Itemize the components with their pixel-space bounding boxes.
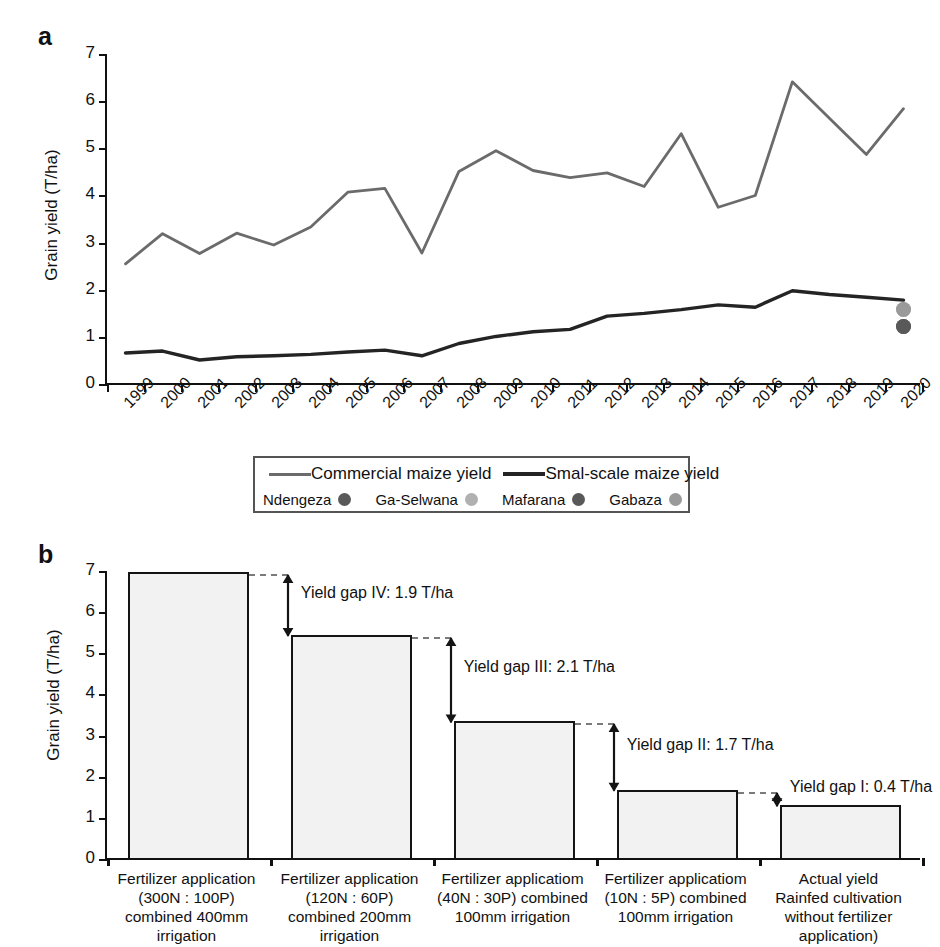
panel-b-y-axis-label: Grain yield (T/ha)	[44, 615, 64, 775]
legend-site-dot	[338, 493, 351, 506]
x-tick-mark	[596, 858, 599, 866]
y-tick-mark	[99, 290, 107, 292]
legend-site-dot	[572, 493, 585, 506]
y-tick-label: 0	[86, 849, 95, 866]
legend-site-entry: Ga-Selwana	[375, 491, 478, 508]
category-label-2: Fertilizer application(120N : 60P)combin…	[262, 870, 437, 946]
gap-double-arrow	[605, 723, 623, 792]
legend-site-entry: Gabaza	[609, 491, 682, 508]
category-label-1: Fertilizer application(300N : 100P)combi…	[99, 870, 274, 946]
legend-site-dot	[465, 493, 478, 506]
panel-a-letter: a	[38, 22, 52, 51]
x-tick-mark	[433, 858, 436, 866]
legend-series-row: Commercial maize yieldSmal-scale maize y…	[255, 461, 702, 487]
category-label-line: (40N : 30P) combined	[425, 889, 600, 908]
gap-label-2: Yield gap III: 2.1 T/ha	[464, 658, 615, 676]
category-label-line: combined 400mm	[99, 908, 274, 927]
legend-site-label: Ndengeza	[263, 491, 331, 508]
y-tick-mark	[99, 777, 107, 779]
bar-2	[291, 635, 412, 858]
panel-a-y-axis-label: Grain yield (T/ha)	[42, 135, 62, 295]
y-tick-mark	[99, 859, 107, 861]
x-tick-mark	[922, 858, 925, 866]
y-tick-mark	[99, 612, 107, 614]
category-label-line: without fertilizer	[751, 908, 926, 927]
legend-site-entry: Ndengeza	[263, 491, 351, 508]
y-tick-label: 3	[86, 233, 95, 250]
y-tick-label: 5	[86, 138, 95, 155]
gap-double-arrow	[279, 574, 297, 637]
legend-sites-row: NdengezaGa-SelwanaMafaranaGabaza	[255, 487, 696, 512]
y-tick-label: 7	[86, 561, 95, 578]
bar-4	[617, 790, 738, 858]
y-tick-mark	[99, 694, 107, 696]
y-tick-mark	[99, 148, 107, 150]
legend-site-label: Ga-Selwana	[375, 491, 458, 508]
y-tick-label: 7	[86, 44, 95, 61]
y-tick-label: 1	[86, 327, 95, 344]
category-label-line: Actual yield	[751, 870, 926, 889]
x-tick-mark	[270, 858, 273, 866]
y-tick-mark	[99, 736, 107, 738]
panel-a-legend: Commercial maize yieldSmal-scale maize y…	[253, 456, 690, 513]
y-tick-label: 5	[86, 643, 95, 660]
gap-double-arrow	[442, 637, 460, 723]
x-tick-mark	[107, 858, 110, 866]
category-label-line: (10N : 5P) combined	[588, 889, 763, 908]
y-tick-mark	[99, 337, 107, 339]
category-label-line: 100mm irrigation	[588, 908, 763, 927]
y-tick-label: 6	[86, 602, 95, 619]
bar-1	[128, 572, 249, 858]
gap-label-3: Yield gap II: 1.7 T/ha	[627, 736, 774, 754]
legend-line-swatch	[269, 473, 311, 476]
bar-5	[780, 805, 901, 858]
category-label-line: 100mm irrigation	[425, 908, 600, 927]
bar-3	[454, 721, 575, 858]
legend-site-label: Gabaza	[609, 491, 662, 508]
figure-container: a Grain yield (T/ha) 01234567 1999200020…	[0, 0, 940, 947]
y-tick-mark	[99, 195, 107, 197]
category-label-line: Fertilizer application	[262, 870, 437, 889]
legend-series-label: Smal-scale maize yield	[545, 464, 719, 484]
legend-site-entry: Mafarana	[502, 491, 585, 508]
x-tick-mark	[759, 858, 762, 866]
category-label-line: Fertilizer applicatiom	[425, 870, 600, 889]
series-line-2	[126, 291, 904, 360]
y-tick-label: 3	[86, 726, 95, 743]
y-tick-label: 4	[86, 684, 95, 701]
legend-site-label: Mafarana	[502, 491, 565, 508]
category-label-5: Actual yieldRainfed cultivationwithout f…	[751, 870, 926, 946]
y-tick-mark	[99, 818, 107, 820]
panel-b-bar-chart: b Grain yield (T/ha) 01234567 Yield gap …	[0, 520, 940, 947]
category-label-line: Fertilizer application	[99, 870, 274, 889]
category-label-line: (300N : 100P)	[99, 889, 274, 908]
y-tick-label: 2	[86, 280, 95, 297]
site-marker-gabaza	[896, 302, 911, 317]
legend-series-label: Commercial maize yield	[311, 464, 491, 484]
y-tick-label: 6	[86, 91, 95, 108]
legend-site-dot	[669, 493, 682, 506]
y-tick-mark	[99, 54, 107, 56]
category-label-line: Fertilizer applicatiom	[588, 870, 763, 889]
category-label-line: irrigation	[99, 927, 274, 946]
panel-a-series-lines	[107, 55, 922, 385]
y-tick-mark	[99, 243, 107, 245]
y-tick-mark	[99, 653, 107, 655]
y-tick-mark	[99, 101, 107, 103]
category-label-line: irrigation	[262, 927, 437, 946]
y-tick-mark	[99, 571, 107, 573]
gap-label-1: Yield gap IV: 1.9 T/ha	[301, 584, 453, 602]
y-tick-label: 0	[86, 374, 95, 391]
category-label-line: Rainfed cultivation	[751, 889, 926, 908]
category-label-line: combined 200mm	[262, 908, 437, 927]
y-tick-label: 1	[86, 808, 95, 825]
y-tick-label: 2	[86, 767, 95, 784]
legend-line-swatch	[503, 472, 545, 476]
category-label-line: application)	[751, 927, 926, 946]
y-tick-label: 4	[86, 185, 95, 202]
category-label-line: (120N : 60P)	[262, 889, 437, 908]
panel-a-line-chart: a Grain yield (T/ha) 01234567 1999200020…	[0, 0, 940, 520]
series-line-1	[126, 82, 904, 264]
panel-b-letter: b	[38, 540, 53, 569]
category-label-4: Fertilizer applicatiom(10N : 5P) combine…	[588, 870, 763, 927]
